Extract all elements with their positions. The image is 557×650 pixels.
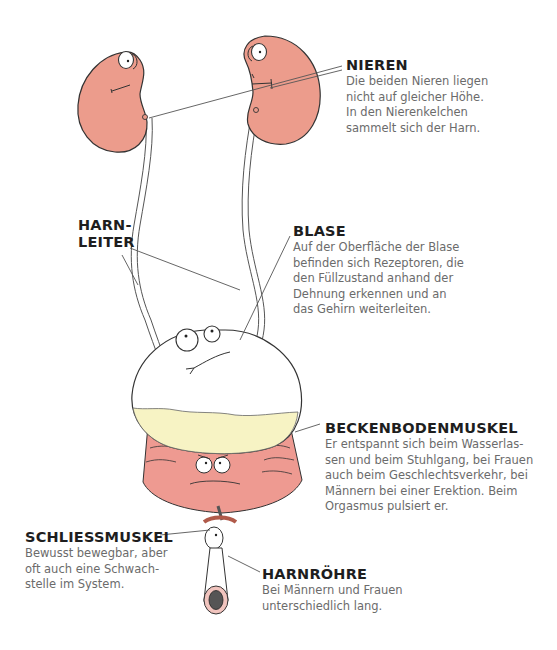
beckenbodenmuskel-title: BECKENBODENMUSKEL bbox=[325, 420, 533, 437]
harnroehre-text-line: unterschiedlich lang. bbox=[262, 599, 403, 615]
nieren-title: NIEREN bbox=[346, 57, 488, 74]
label-beckenbodenmuskel: BECKENBODENMUSKEL Er entspannt sich beim… bbox=[325, 420, 533, 515]
schliessmuskel-title: SCHLIESSMUSKEL bbox=[25, 529, 173, 546]
label-blase: BLASE Auf der Oberfläche der Blase befin… bbox=[293, 223, 464, 318]
label-harnroehre: HARNRÖHRE Bei Männern und Frauen untersc… bbox=[262, 566, 403, 614]
harnroehre-text-line: Bei Männern und Frauen bbox=[262, 583, 403, 599]
beckenbodenmuskel-text-line: Orgasmus pulsiert er. bbox=[325, 499, 533, 515]
left-kidney bbox=[78, 52, 148, 153]
blase-title: BLASE bbox=[293, 223, 464, 240]
blase-text-line: Auf der Oberfläche der Blase bbox=[293, 240, 464, 256]
ureters bbox=[131, 112, 264, 362]
right-kidney bbox=[244, 36, 320, 144]
schliessmuskel-text-line: stelle im System. bbox=[25, 577, 173, 593]
nieren-text-line: In den Nierenkelchen bbox=[346, 105, 488, 121]
label-harnleiter: HARN- LEITER bbox=[78, 217, 135, 251]
nieren-text-line: sammelt sich der Harn. bbox=[346, 121, 488, 137]
blase-text-line: befinden sich Rezeptoren, die bbox=[293, 256, 464, 272]
bladder bbox=[132, 326, 302, 454]
beckenbodenmuskel-text-line: Männern bei einer Erektion. Beim bbox=[325, 484, 533, 500]
label-nieren: NIEREN Die beiden Nieren liegen nicht au… bbox=[346, 57, 488, 136]
nieren-text-line: nicht auf gleicher Höhe. bbox=[346, 90, 488, 106]
harnleiter-title-line: HARN- bbox=[78, 217, 135, 234]
schliessmuskel-text-line: Bewusst bewegbar, aber bbox=[25, 546, 173, 562]
schliessmuskel-text-line: oft auch eine Schwach- bbox=[25, 562, 173, 578]
harnleiter-title-line: LEITER bbox=[78, 234, 135, 251]
harnroehre-title: HARNRÖHRE bbox=[262, 566, 403, 583]
blase-text-line: Dehnung erkennen und an bbox=[293, 287, 464, 303]
beckenbodenmuskel-text-line: sen und beim Stuhlgang, bei Frauen bbox=[325, 453, 533, 469]
nieren-text-line: Die beiden Nieren liegen bbox=[346, 74, 488, 90]
urethra bbox=[204, 548, 228, 614]
label-schliessmuskel: SCHLIESSMUSKEL Bewusst bewegbar, aber of… bbox=[25, 529, 173, 593]
blase-text-line: das Gehirn weiterleiten. bbox=[293, 302, 464, 318]
beckenbodenmuskel-text-line: Er entspannt sich beim Wasserlas- bbox=[325, 437, 533, 453]
beckenbodenmuskel-text-line: auch beim Geschlechtsverkehr, bei bbox=[325, 468, 533, 484]
blase-text-line: den Füllzustand anhand der bbox=[293, 271, 464, 287]
